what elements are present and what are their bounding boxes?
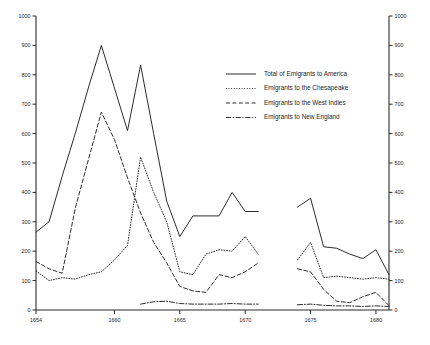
y-tick-label-right: 900 [395, 42, 404, 48]
x-tick-label: 1654 [30, 317, 42, 323]
y-tick-label-left: 100 [22, 278, 31, 284]
y-tick-label-left: 900 [22, 42, 31, 48]
y-tick-label-right: 100 [395, 278, 404, 284]
y-tick-label-right: 800 [395, 72, 404, 78]
legend-label-0: Total of Emigrants to America [264, 70, 348, 78]
y-tick-label-left: 500 [22, 160, 31, 166]
y-tick-label-right: 400 [395, 189, 404, 195]
emigration-line-chart: 0100200300400500600700800900100001002003… [0, 0, 430, 345]
series-line-0 [36, 45, 389, 274]
x-tick-label: 1675 [305, 317, 317, 323]
y-tick-label-right: 200 [395, 248, 404, 254]
y-tick-label-left: 800 [22, 72, 31, 78]
legend-label-1: Emigrants to the Chesapeake [264, 84, 349, 92]
y-tick-label-left: 200 [22, 248, 31, 254]
series-line-2 [36, 112, 389, 305]
y-tick-label-left: 300 [22, 219, 31, 225]
x-tick-label: 1670 [239, 317, 251, 323]
y-tick-label-right: 600 [395, 131, 404, 137]
series-line-1 [36, 157, 389, 280]
legend-label-3: Emigrants to New England [264, 113, 340, 121]
legend-label-2: Emigrants to the West Indies [264, 99, 346, 107]
y-tick-label-right: 1000 [395, 13, 407, 19]
y-tick-label-right: 500 [395, 160, 404, 166]
y-tick-label-left: 700 [22, 101, 31, 107]
x-tick-label: 1665 [174, 317, 186, 323]
legend-group: Total of Emigrants to AmericaEmigrants t… [226, 70, 349, 122]
axes-group: 0100200300400500600700800900100001002003… [19, 13, 407, 323]
y-tick-label-right: 0 [395, 307, 398, 313]
y-tick-label-left: 0 [28, 307, 31, 313]
y-tick-label-left: 1000 [19, 13, 31, 19]
y-tick-label-left: 400 [22, 189, 31, 195]
x-tick-label: 1680 [370, 317, 382, 323]
y-tick-label-right: 300 [395, 219, 404, 225]
y-tick-label-right: 700 [395, 101, 404, 107]
y-tick-label-left: 600 [22, 131, 31, 137]
chart-svg: 0100200300400500600700800900100001002003… [0, 0, 430, 345]
x-tick-label: 1660 [108, 317, 120, 323]
